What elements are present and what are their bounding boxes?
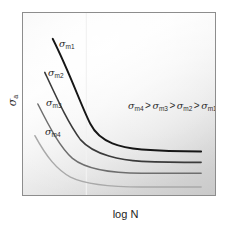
figure-container: σm1 σm2 σm3 σm4 σm4>σm3>σm2>σm1 σa log N xyxy=(0,0,251,233)
sigma-subscript: a xyxy=(12,95,19,99)
curve-sigma-m2 xyxy=(45,72,201,162)
inequality-annotation: σm4>σm3>σm2>σm1 xyxy=(128,101,216,113)
sigma-subscript: m4 xyxy=(52,131,61,138)
curve-label-sigma-m1: σm1 xyxy=(59,39,75,51)
greater-than-sign: > xyxy=(192,100,201,111)
curve-label-sigma-m3: σm3 xyxy=(46,98,62,110)
sigma-subscript: m2 xyxy=(55,72,64,79)
greater-than-sign: > xyxy=(168,100,177,111)
sigma-subscript: m1 xyxy=(208,105,216,112)
sigma-subscript: m2 xyxy=(183,105,192,112)
curve-sigma-m1 xyxy=(53,39,201,152)
sigma-subscript: m3 xyxy=(53,102,62,109)
sigma-subscript: m4 xyxy=(135,105,144,112)
plot-area: σm1 σm2 σm3 σm4 σm4>σm3>σm2>σm1 xyxy=(22,12,216,196)
x-axis-title: log N xyxy=(0,208,251,220)
sigma-subscript: m3 xyxy=(159,105,168,112)
y-axis-title: σa xyxy=(6,91,19,111)
curve-label-sigma-m4: σm4 xyxy=(45,127,61,139)
sigma-subscript: m1 xyxy=(66,43,75,50)
curve-label-sigma-m2: σm2 xyxy=(48,68,64,80)
sigma-symbol: σ xyxy=(6,99,19,107)
